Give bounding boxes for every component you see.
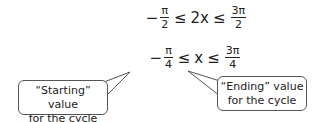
callout-text: for the cycle (19, 112, 107, 122)
end-pointer (188, 71, 220, 96)
callout-text: for the cycle (218, 94, 306, 108)
callout-text: “Ending” value (218, 80, 306, 94)
callout-text: “Starting” value (19, 84, 107, 112)
ending-value-callout: “Ending” value for the cycle (217, 76, 307, 111)
starting-value-callout: “Starting” value for the cycle (18, 80, 108, 115)
